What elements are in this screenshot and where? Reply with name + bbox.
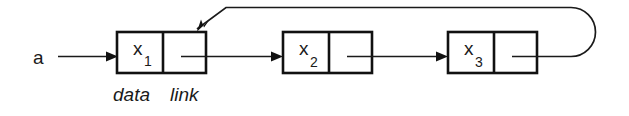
node-3-data-subscript: 3 xyxy=(475,54,483,70)
node-2-data-subscript: 2 xyxy=(310,54,318,70)
node-3 xyxy=(448,32,537,73)
node-3-box xyxy=(448,32,537,73)
node-2-box xyxy=(283,32,372,73)
arrow-right-icon xyxy=(436,52,448,62)
field-label-link: link xyxy=(170,84,200,105)
node-1-box xyxy=(117,32,206,73)
node-2-data-value: x xyxy=(299,38,309,59)
field-label-data: data xyxy=(113,84,150,105)
head-pointer-label: a xyxy=(33,47,44,68)
arrow-right-icon xyxy=(271,52,283,62)
node-1-data-value: x xyxy=(133,38,143,59)
node-2 xyxy=(283,32,372,73)
node-1 xyxy=(117,32,206,73)
linked-list-diagram: a x 1 x 2 x 3 data link xyxy=(0,0,629,116)
node-1-data-subscript: 1 xyxy=(144,53,152,69)
edge-node-1-to-node-2 xyxy=(181,52,283,62)
diagram-canvas: a x 1 x 2 x 3 data link xyxy=(0,0,629,116)
edge-node-2-to-node-3 xyxy=(347,52,448,62)
head-pointer-arrow xyxy=(58,52,118,62)
node-3-data-value: x xyxy=(464,38,474,59)
